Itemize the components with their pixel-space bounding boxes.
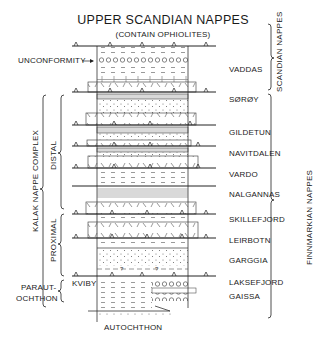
unit-label-gildetun: GILDETUN — [229, 128, 271, 137]
parautochthon-label-1: PARAUT- — [21, 283, 56, 292]
unit-label-leirbotn: LEIRBOTN — [229, 236, 271, 245]
unit-label-laksefjord: LAKSEFJORD — [229, 278, 283, 287]
scandian-nappes-label: SCANDIAN NAPPES — [275, 11, 284, 92]
parautochthon-label-2: OCHTHON — [16, 294, 58, 303]
proximal-label: PROXIMAL — [49, 218, 58, 262]
svg-text:?: ? — [155, 266, 159, 272]
unit-label-nalgannas: NALGANNAS — [229, 190, 280, 199]
unit-label-garggia: GARGGIA — [229, 256, 268, 265]
kalak-nappe-complex-label: KALAK NAPPE COMPLEX — [31, 130, 40, 232]
unit-label-vardo: VARDO — [229, 170, 258, 179]
unit-label-vaddas: VADDAS — [229, 65, 263, 74]
kviby-label: KVIBY — [72, 279, 97, 288]
unit-label-navitdalen: NAVITDALEN — [229, 149, 281, 158]
unit-label-gaissa: GAISSA — [229, 292, 260, 301]
unit-label-skillefjord: SKILLEFJORD — [229, 215, 285, 224]
unit-label-soroy: SØRØY — [229, 95, 259, 104]
autochthon-label: AUTOCHTHON — [104, 323, 162, 332]
distal-label: DISTAL — [49, 141, 58, 170]
finnmarkian-nappes-label: FINNMARKIAN NAPPES — [305, 170, 314, 265]
unconformity-label: UNCONFORMITY — [18, 56, 86, 65]
